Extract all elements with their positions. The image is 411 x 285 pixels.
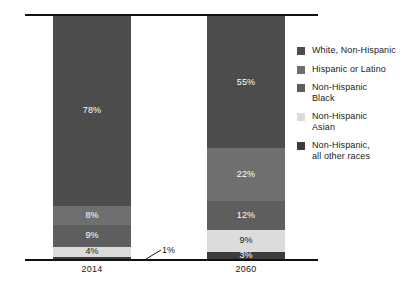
- bar-segment-black: 12%: [207, 201, 285, 230]
- bar-segment-value-label: 9%: [239, 236, 252, 245]
- legend-swatch-icon: [297, 66, 305, 74]
- bar-segment-value-label: 8%: [85, 211, 98, 220]
- category-label-2014: 2014: [53, 264, 131, 274]
- stacked-bar-2060: 55%22%12%9%3%: [207, 16, 285, 259]
- callout-label-1-percent: 1%: [162, 245, 175, 255]
- bar-segment-value-label: 22%: [237, 170, 255, 179]
- bar-segment-white: 55%: [207, 16, 285, 148]
- legend-item-label: Non-Hispanic, all other races: [312, 140, 370, 161]
- chart-legend: White, Non-HispanicHispanic or LatinoNon…: [297, 45, 411, 169]
- category-label-2060: 2060: [207, 264, 285, 274]
- stacked-bar-chart: 78%8%9%4%1% 55%22%12%9%3% 2014 2060 1% W…: [0, 0, 411, 285]
- legend-item-label: Hispanic or Latino: [312, 64, 386, 75]
- bar-segment-other: 3%: [207, 252, 285, 259]
- legend-item[interactable]: White, Non-Hispanic: [297, 45, 411, 56]
- bar-segment-asian: 9%: [207, 230, 285, 252]
- bar-segment-value-label: 3%: [239, 252, 252, 259]
- bar-segment-value-label: 12%: [237, 211, 255, 220]
- bar-segment-value-label: 55%: [237, 78, 255, 87]
- legend-swatch-icon: [297, 84, 305, 92]
- bar-segment-hisp: 8%: [53, 206, 131, 225]
- legend-item[interactable]: Non-Hispanic, all other races: [297, 140, 411, 161]
- stacked-bar-2014: 78%8%9%4%1%: [53, 16, 131, 259]
- bar-segment-other: 1%: [53, 257, 131, 259]
- legend-item-label: Non-Hispanic Black: [312, 82, 367, 103]
- bar-segment-asian: 4%: [53, 247, 131, 257]
- legend-item[interactable]: Hispanic or Latino: [297, 64, 411, 75]
- legend-swatch-icon: [297, 47, 305, 55]
- legend-swatch-icon: [297, 142, 305, 150]
- callout-leader-line: [146, 250, 161, 259]
- legend-item[interactable]: Non-Hispanic Asian: [297, 111, 411, 132]
- legend-item-label: Non-Hispanic Asian: [312, 111, 367, 132]
- legend-item[interactable]: Non-Hispanic Black: [297, 82, 411, 103]
- bar-segment-value-label: 78%: [83, 106, 101, 115]
- bar-segment-value-label: 9%: [85, 231, 98, 240]
- bar-segment-hisp: 22%: [207, 148, 285, 201]
- legend-swatch-icon: [297, 113, 305, 121]
- bar-segment-value-label: 4%: [85, 247, 98, 256]
- legend-item-label: White, Non-Hispanic: [312, 45, 396, 56]
- axis-bottom-rule: [25, 259, 318, 261]
- bar-segment-black: 9%: [53, 225, 131, 247]
- bar-segment-white: 78%: [53, 16, 131, 206]
